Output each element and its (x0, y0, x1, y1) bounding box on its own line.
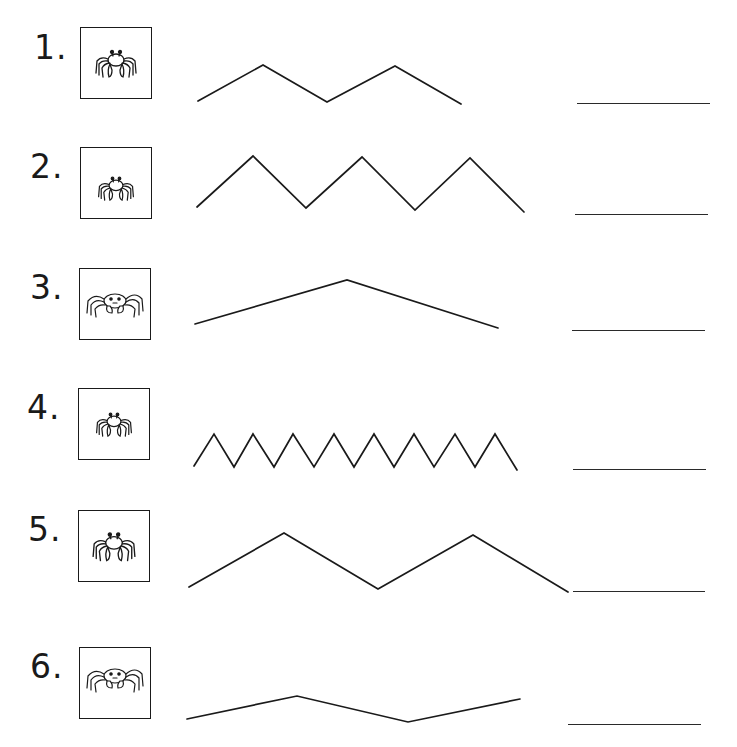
crab-picture-box-1 (80, 27, 152, 99)
crab-picture-box-2 (80, 147, 152, 219)
crab-icon (93, 43, 139, 83)
crab-picture-box-6 (79, 647, 151, 719)
wave-line-5 (189, 533, 568, 592)
answer-blank-1[interactable] (577, 103, 710, 104)
item-number-1: 1. (34, 31, 68, 64)
item-number-5: 5. (28, 513, 62, 546)
crab-picture-box-4 (78, 388, 150, 460)
answer-blank-2[interactable] (575, 214, 708, 215)
crab-picture-box-5 (78, 510, 150, 582)
answer-blank-6[interactable] (568, 724, 701, 725)
item-number-4: 4. (27, 391, 61, 424)
item-number-3: 3. (30, 271, 64, 304)
item-number-6: 6. (30, 650, 64, 683)
crab-icon (96, 170, 136, 206)
crab-icon (85, 287, 145, 321)
wave-line-4 (194, 434, 517, 470)
crab-icon (85, 662, 145, 696)
wave-line-3 (195, 280, 498, 328)
crab-picture-box-3 (79, 268, 151, 340)
wave-lines-layer (0, 0, 737, 747)
wave-line-6 (187, 696, 520, 722)
answer-blank-5[interactable] (573, 591, 705, 592)
cropped-header-remnant (0, 0, 737, 6)
answer-blank-3[interactable] (572, 330, 705, 331)
item-number-2: 2. (30, 150, 64, 183)
crab-icon (94, 406, 134, 442)
crab-icon (90, 525, 138, 567)
answer-blank-4[interactable] (573, 469, 706, 470)
wave-line-2 (197, 156, 524, 212)
wave-line-1 (198, 65, 461, 104)
